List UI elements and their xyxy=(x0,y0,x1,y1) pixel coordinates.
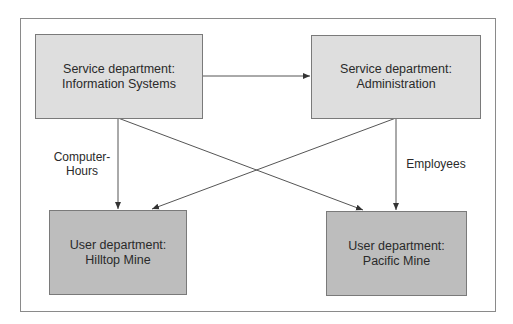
node-hilltop-line2: Hilltop Mine xyxy=(85,253,150,267)
edge-label-computer-hours: Computer-Hours xyxy=(50,150,114,178)
node-hilltop-line1: User department: xyxy=(70,238,167,252)
edge-admin-to-hilltop xyxy=(152,118,396,209)
node-pacific-mine: User department:Pacific Mine xyxy=(326,211,467,296)
node-administration: Service department:Administration xyxy=(311,35,481,119)
node-info-systems: Service department:Information Systems xyxy=(35,34,203,119)
node-pacific-line2: Pacific Mine xyxy=(363,254,430,268)
edge-info-to-pacific xyxy=(118,118,363,210)
node-hilltop-mine: User department:Hilltop Mine xyxy=(49,210,187,295)
node-info-systems-line2: Information Systems xyxy=(62,77,176,91)
node-administration-line1: Service department: xyxy=(340,62,452,76)
node-pacific-line1: User department: xyxy=(348,239,445,253)
node-info-systems-line1: Service department: xyxy=(63,62,175,76)
edge-label-employees: Employees xyxy=(404,157,468,171)
node-administration-line2: Administration xyxy=(356,77,435,91)
